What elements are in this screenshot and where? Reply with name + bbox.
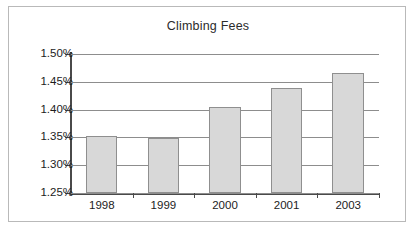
bar-2001	[271, 88, 302, 193]
chart-title: Climbing Fees	[9, 19, 407, 33]
x-axis-tick-mark	[379, 193, 380, 198]
y-axis-tick-label: 1.30%	[13, 158, 73, 170]
bar-2003	[332, 73, 363, 193]
y-axis-tick-label: 1.40%	[13, 103, 73, 115]
y-axis-tick-label: 1.45%	[13, 75, 73, 87]
gridline	[71, 193, 379, 194]
chart-figure: Climbing Fees 1.50%1.45%1.40%1.35%1.30%1…	[8, 6, 406, 222]
x-axis-tick-label: 1998	[71, 199, 133, 211]
plot-area	[71, 54, 379, 193]
x-axis-tick-label: 2000	[194, 199, 256, 211]
x-axis-tick-label: 2003	[317, 199, 379, 211]
bar-1999	[148, 138, 179, 193]
gridline	[71, 54, 379, 55]
bar-1998	[86, 136, 117, 193]
x-axis-tick-label: 1999	[132, 199, 194, 211]
x-axis-tick-mark	[256, 193, 257, 198]
y-axis-tick-label: 1.50%	[13, 47, 73, 59]
y-axis-tick-label: 1.25%	[13, 186, 73, 198]
x-axis-tick-mark	[133, 193, 134, 198]
y-axis-tick-label: 1.35%	[13, 130, 73, 142]
x-axis-tick-mark	[317, 193, 318, 198]
x-axis-tick-label: 2001	[256, 199, 318, 211]
bar-2000	[209, 107, 240, 193]
x-axis-tick-mark	[194, 193, 195, 198]
